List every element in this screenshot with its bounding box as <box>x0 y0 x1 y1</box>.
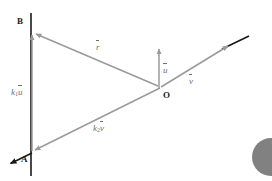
vector-label-r: r <box>96 43 100 52</box>
vector-label-u: u <box>163 66 168 75</box>
vector-k2v <box>35 88 160 150</box>
vector-label-k2v: k2v <box>93 124 104 133</box>
vector-label-k2v-vec: v <box>100 123 104 133</box>
diagram-canvas <box>0 0 272 181</box>
vector-label-u-text: u <box>163 65 168 75</box>
vector-label-r-text: r <box>96 42 100 52</box>
point-label-a: A <box>21 155 28 164</box>
vector-diagram: B A O r u v k1u k2v <box>0 0 272 181</box>
vector-v <box>161 46 228 87</box>
point-label-b: B <box>17 17 23 26</box>
vector-label-v-text: v <box>189 76 193 86</box>
point-label-o: O <box>163 91 170 100</box>
vector-label-k1u: k1u <box>11 88 23 97</box>
vector-label-k1u-vec: u <box>18 87 23 97</box>
vector-label-v: v <box>189 77 193 86</box>
